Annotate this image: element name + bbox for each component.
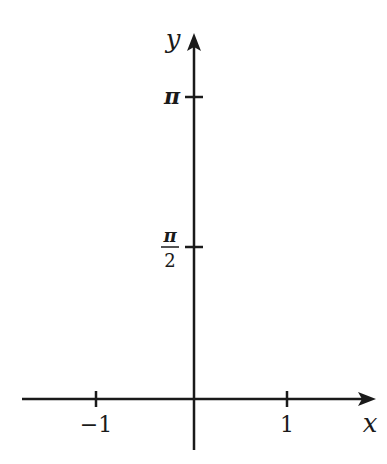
x-axis-label: x — [363, 408, 378, 438]
coordinate-plane: −1 1 x y π π 2 — [0, 0, 387, 464]
y-tick-label-pi-half-denominator: 2 — [164, 250, 175, 271]
y-axis-label: y — [165, 24, 181, 54]
y-tick-label-pi-half-numerator: π — [162, 225, 177, 246]
x-tick-label-neg1: −1 — [80, 412, 112, 437]
x-tick-label-1: 1 — [280, 412, 294, 437]
y-tick-label-pi: π — [163, 83, 181, 109]
